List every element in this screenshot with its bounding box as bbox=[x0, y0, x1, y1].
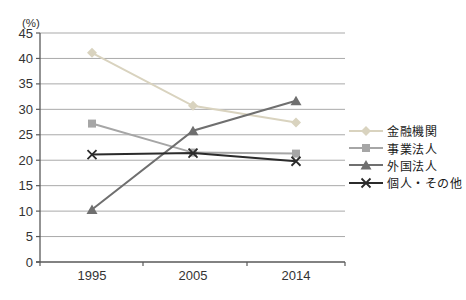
legend-item-foreign-corporations: 外国法人 bbox=[349, 157, 462, 174]
x-tick-label-1995: 1995 bbox=[78, 268, 107, 283]
y-tick-label-15: 15 bbox=[19, 178, 33, 193]
x-tick-label-2014: 2014 bbox=[282, 268, 311, 283]
triangle-marker-icon bbox=[291, 96, 302, 106]
y-tick-label-25: 25 bbox=[19, 127, 33, 142]
y-tick-label-10: 10 bbox=[19, 204, 33, 219]
legend-item-individuals-others: 個人・その他 bbox=[349, 174, 462, 191]
diamond-marker-icon bbox=[361, 126, 371, 136]
legend-label-business-corporations: 事業法人 bbox=[387, 140, 437, 157]
legend-marker-individuals-others-icon bbox=[349, 176, 383, 190]
y-tick-label-40: 40 bbox=[19, 51, 33, 66]
legend-marker-foreign-corporations-icon bbox=[349, 158, 383, 172]
y-tick-label-0: 0 bbox=[26, 255, 33, 270]
square-marker-icon bbox=[362, 144, 370, 152]
legend: 金融機関 事業法人 外国法人 個人・その他 bbox=[349, 122, 462, 192]
y-axis-unit-label: (%) bbox=[22, 17, 40, 29]
chart-figure: 051015202530354045(%)199520052014 金融機関 事… bbox=[0, 0, 466, 300]
y-tick-label-5: 5 bbox=[26, 229, 33, 244]
legend-item-business-corporations: 事業法人 bbox=[349, 139, 462, 156]
y-tick-label-20: 20 bbox=[19, 153, 33, 168]
square-marker-icon bbox=[292, 150, 300, 158]
diamond-marker-icon bbox=[87, 48, 97, 58]
legend-label-financial-institutions: 金融機関 bbox=[387, 122, 437, 139]
y-tick-label-30: 30 bbox=[19, 102, 33, 117]
x-tick-label-2005: 2005 bbox=[179, 268, 208, 283]
legend-label-individuals-others: 個人・その他 bbox=[387, 174, 462, 191]
legend-marker-business-corporations-icon bbox=[349, 141, 383, 155]
square-marker-icon bbox=[88, 120, 96, 128]
series-line-financial-institutions bbox=[92, 53, 296, 123]
legend-item-financial-institutions: 金融機関 bbox=[349, 122, 462, 139]
legend-marker-financial-institutions-icon bbox=[349, 124, 383, 138]
y-tick-label-35: 35 bbox=[19, 76, 33, 91]
legend-label-foreign-corporations: 外国法人 bbox=[387, 157, 437, 174]
diamond-marker-icon bbox=[291, 118, 301, 128]
